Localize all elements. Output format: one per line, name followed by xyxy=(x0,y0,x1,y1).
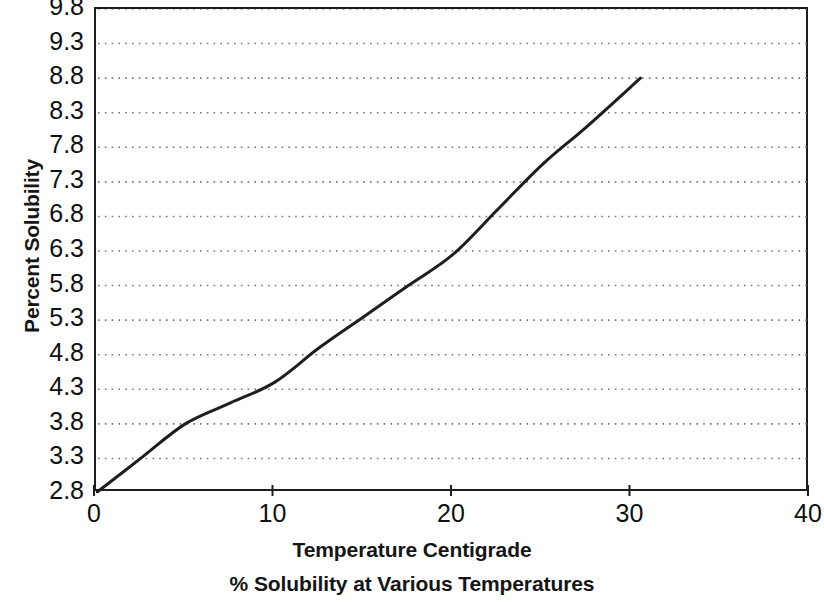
plot-area xyxy=(94,7,808,491)
x-tick-label: 40 xyxy=(778,501,824,526)
x-axis-tick-labels: 010203040 xyxy=(0,501,824,541)
x-tick-label: 0 xyxy=(64,501,124,526)
x-tick-label: 10 xyxy=(243,501,303,526)
y-tick-label: 7.3 xyxy=(28,167,84,192)
y-axis-tick-labels: 2.83.33.84.34.85.35.86.36.87.37.88.38.89… xyxy=(28,0,84,491)
y-tick-label: 8.3 xyxy=(28,98,84,123)
plot-svg xyxy=(96,9,810,493)
y-tick-label: 9.3 xyxy=(28,29,84,54)
chart-caption-title: % Solubility at Various Temperatures xyxy=(0,572,824,596)
solubility-chart-figure: Percent Solubility 2.83.33.84.34.85.35.8… xyxy=(0,0,824,606)
y-tick-label: 6.8 xyxy=(28,201,84,226)
y-tick-label: 5.8 xyxy=(28,271,84,296)
y-tick-label: 3.3 xyxy=(28,443,84,468)
y-tick-label: 9.8 xyxy=(28,0,84,19)
x-axis-tick-marks xyxy=(0,485,824,501)
y-tick-label: 5.3 xyxy=(28,305,84,330)
y-tick-label: 7.8 xyxy=(28,132,84,157)
y-tick-label: 4.3 xyxy=(28,374,84,399)
y-tick-label: 6.3 xyxy=(28,236,84,261)
y-tick-label: 8.8 xyxy=(28,63,84,88)
gridline-group xyxy=(98,9,808,458)
data-series-group xyxy=(96,78,640,493)
x-tick-label: 20 xyxy=(421,501,481,526)
y-tick-label: 4.8 xyxy=(28,340,84,365)
x-axis-title: Temperature Centigrade xyxy=(0,538,824,562)
data-line-percent-solubility xyxy=(96,78,640,493)
x-tick-label: 30 xyxy=(600,501,660,526)
y-tick-label: 3.8 xyxy=(28,409,84,434)
